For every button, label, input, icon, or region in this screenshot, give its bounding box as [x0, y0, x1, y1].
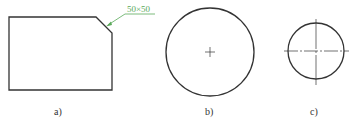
- figure-label-a: a): [54, 106, 62, 118]
- leader-arrow-icon: [106, 22, 112, 27]
- chamfer-dimension: 50×50: [127, 4, 151, 14]
- drawing-canvas: 50×50 a) b) c): [0, 0, 358, 129]
- figure-b: b): [166, 8, 254, 118]
- chamfered-rectangle: [9, 17, 112, 90]
- figure-label-b: b): [205, 106, 213, 118]
- figure-a: 50×50 a): [9, 4, 155, 118]
- figure-c: c): [284, 19, 349, 118]
- figure-label-c: c): [310, 106, 318, 118]
